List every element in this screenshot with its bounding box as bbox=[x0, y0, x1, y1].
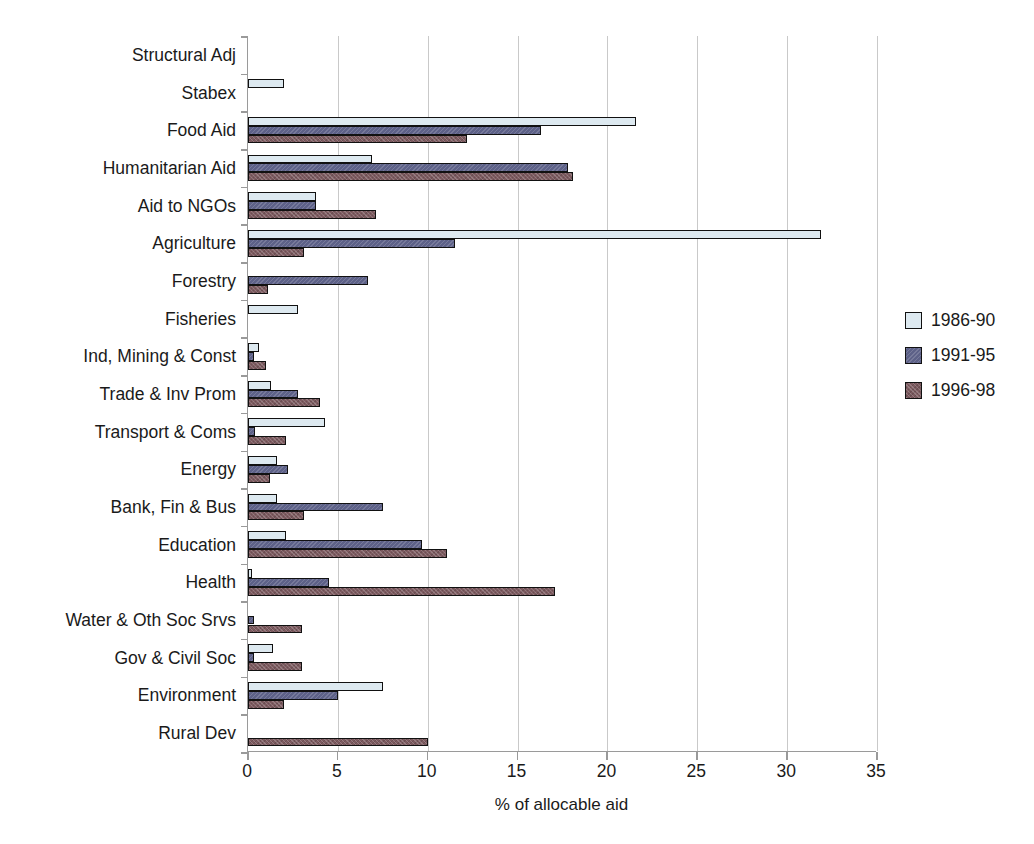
bar[interactable] bbox=[248, 126, 541, 135]
bar[interactable] bbox=[248, 503, 383, 512]
category-tick bbox=[241, 36, 248, 38]
x-axis-tick-label: 10 bbox=[417, 761, 436, 782]
bar[interactable] bbox=[248, 201, 316, 210]
category-label: Food Aid bbox=[0, 120, 236, 140]
x-axis-tick-mark bbox=[427, 752, 429, 760]
bar[interactable] bbox=[248, 549, 447, 558]
x-axis-tick-label: 30 bbox=[776, 761, 795, 782]
bar[interactable] bbox=[248, 625, 302, 634]
bar[interactable] bbox=[248, 155, 372, 164]
bar-track bbox=[248, 607, 876, 616]
bar[interactable] bbox=[248, 662, 302, 671]
bar[interactable] bbox=[248, 398, 320, 407]
bar[interactable] bbox=[248, 381, 271, 390]
bar[interactable] bbox=[248, 248, 304, 257]
bar-track bbox=[248, 381, 876, 390]
category-label: Structural Adj bbox=[0, 45, 236, 65]
x-axis-tick-label: 15 bbox=[507, 761, 526, 782]
bar[interactable] bbox=[248, 305, 298, 314]
bar-track bbox=[248, 625, 876, 634]
bar[interactable] bbox=[248, 700, 284, 709]
bar-track bbox=[248, 616, 876, 625]
x-axis-tick-mark bbox=[337, 752, 339, 760]
bar[interactable] bbox=[248, 511, 304, 520]
bar[interactable] bbox=[248, 474, 270, 483]
category-label: Ind, Mining & Const bbox=[0, 346, 236, 366]
bar[interactable] bbox=[248, 135, 467, 144]
bar[interactable] bbox=[248, 352, 254, 361]
x-axis-tick-mark bbox=[786, 752, 788, 760]
bar-group bbox=[248, 36, 876, 74]
bar[interactable] bbox=[248, 436, 286, 445]
bar-track bbox=[248, 285, 876, 294]
bar-group bbox=[248, 111, 876, 149]
x-axis-tick-label: 20 bbox=[597, 761, 616, 782]
bar[interactable] bbox=[248, 230, 821, 239]
category-label: Environment bbox=[0, 685, 236, 705]
bar-track bbox=[248, 465, 876, 474]
bar[interactable] bbox=[248, 644, 273, 653]
bar[interactable] bbox=[248, 653, 254, 662]
bar[interactable] bbox=[248, 569, 252, 578]
legend-label: 1996-98 bbox=[931, 380, 995, 401]
bar[interactable] bbox=[248, 418, 325, 427]
legend-item[interactable]: 1996-98 bbox=[905, 373, 1030, 408]
legend-swatch-icon bbox=[905, 347, 922, 364]
category-tick bbox=[241, 601, 248, 603]
bar[interactable] bbox=[248, 276, 368, 285]
bar[interactable] bbox=[248, 494, 277, 503]
category-label: Humanitarian Aid bbox=[0, 158, 236, 178]
category-label: Gov & Civil Soc bbox=[0, 648, 236, 668]
x-axis-title: % of allocable aid bbox=[247, 795, 876, 815]
bar[interactable] bbox=[248, 738, 428, 747]
bar[interactable] bbox=[248, 616, 254, 625]
legend: 1986-90 1991-95 1996-98 bbox=[905, 303, 1030, 408]
bar-track bbox=[248, 117, 876, 126]
bar[interactable] bbox=[248, 540, 422, 549]
bar[interactable] bbox=[248, 465, 288, 474]
bar[interactable] bbox=[248, 210, 376, 219]
bar[interactable] bbox=[248, 192, 316, 201]
bar-track bbox=[248, 210, 876, 219]
legend-swatch-icon bbox=[905, 312, 922, 329]
bar[interactable] bbox=[248, 390, 298, 399]
bar-track bbox=[248, 720, 876, 729]
bar-track bbox=[248, 172, 876, 181]
bar-track bbox=[248, 314, 876, 323]
bar[interactable] bbox=[248, 531, 286, 540]
x-axis-tick-mark bbox=[696, 752, 698, 760]
bar[interactable] bbox=[248, 343, 259, 352]
bar[interactable] bbox=[248, 79, 284, 88]
bar[interactable] bbox=[248, 456, 277, 465]
bar-track bbox=[248, 587, 876, 596]
bar-track bbox=[248, 323, 876, 332]
bar-track bbox=[248, 276, 876, 285]
bar-track bbox=[248, 540, 876, 549]
bar-track bbox=[248, 662, 876, 671]
category-label: Health bbox=[0, 572, 236, 592]
x-axis-tick-label: 5 bbox=[332, 761, 342, 782]
bar[interactable] bbox=[248, 361, 266, 370]
gridline bbox=[877, 36, 878, 751]
bar[interactable] bbox=[248, 587, 555, 596]
bar[interactable] bbox=[248, 691, 338, 700]
bar[interactable] bbox=[248, 163, 568, 172]
category-label: Forestry bbox=[0, 271, 236, 291]
bar[interactable] bbox=[248, 578, 329, 587]
category-tick bbox=[241, 149, 248, 151]
bar-track bbox=[248, 531, 876, 540]
bar-track bbox=[248, 42, 876, 51]
bar[interactable] bbox=[248, 427, 255, 436]
x-axis-tick-mark bbox=[247, 752, 249, 760]
legend-item[interactable]: 1991-95 bbox=[905, 338, 1030, 373]
bar[interactable] bbox=[248, 285, 268, 294]
bar[interactable] bbox=[248, 117, 636, 126]
bar-group bbox=[248, 714, 876, 752]
legend-item[interactable]: 1986-90 bbox=[905, 303, 1030, 338]
bar[interactable] bbox=[248, 239, 455, 248]
bar-track bbox=[248, 427, 876, 436]
plot-area bbox=[247, 36, 876, 752]
bar[interactable] bbox=[248, 172, 573, 181]
category-label: Aid to NGOs bbox=[0, 196, 236, 216]
bar[interactable] bbox=[248, 682, 383, 691]
